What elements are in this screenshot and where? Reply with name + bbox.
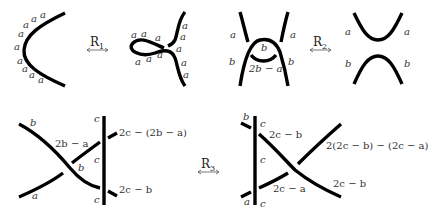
- label-lower-inner: 2c − a: [273, 183, 306, 194]
- label-middle-bottom: 2b − a: [248, 63, 283, 74]
- label-c-top: c: [260, 118, 266, 129]
- r1-right-kink: a a a a a a a a a a a: [131, 12, 189, 86]
- arc-label: a: [31, 13, 37, 24]
- r2-move-arrow: R2: [310, 35, 331, 52]
- arc-label: a: [22, 63, 28, 74]
- arc-label: a: [40, 9, 46, 20]
- label-right-top: 2(2c − b) − (2c − a): [326, 140, 429, 151]
- arc-label: a: [131, 29, 137, 40]
- label-bottom-right: b: [288, 56, 294, 67]
- label-c-bottom: c: [94, 194, 100, 205]
- label-top-left: a: [345, 26, 351, 37]
- arc-label: a: [135, 56, 141, 67]
- arc-label: a: [29, 69, 35, 80]
- r3-right-diagram: b a c c c 2c − b 2c − a 2(2c − b) − (2c …: [241, 111, 429, 209]
- arc-label: a: [146, 53, 152, 64]
- label-bottom-right: b: [404, 58, 410, 69]
- label-c-mid: c: [260, 154, 266, 165]
- label-right-top: 2c − (2b − a): [119, 127, 187, 138]
- r1-left-arc: a a a a a a a a a: [14, 9, 65, 86]
- arc-label: a: [18, 28, 24, 39]
- move-label: R2: [313, 35, 327, 51]
- label-a: a: [32, 190, 38, 201]
- label-b: b: [243, 111, 249, 122]
- r3-move-arrow: R3: [198, 157, 219, 174]
- label-right-bottom: 2c − b: [333, 178, 366, 189]
- label-a: a: [244, 196, 250, 207]
- label-crossing-b: b: [78, 162, 84, 173]
- r2-right-diagram: a a b b: [345, 13, 410, 84]
- label-c-top: c: [94, 113, 100, 124]
- move-label: R1: [90, 35, 104, 51]
- label-c-bottom: c: [260, 198, 266, 209]
- label-2b-minus-a: 2b − a: [55, 138, 89, 149]
- arc-label: a: [14, 41, 20, 52]
- label-top-right: a: [404, 26, 410, 37]
- arc-label: a: [157, 49, 163, 60]
- reidemeister-moves-diagram: a a a a a a a a a R1 a a a a a a a a a a…: [0, 0, 435, 215]
- label-middle-top: b: [261, 42, 267, 53]
- r2-left-diagram: a a b b b 2b − a: [229, 12, 296, 86]
- label-b: b: [30, 117, 36, 128]
- label-right-bottom: 2c − b: [119, 184, 152, 195]
- r3-left-diagram: b a 2b − a b c c c 2c − (2b − a) 2c − b: [19, 113, 187, 205]
- arc-label: a: [38, 74, 44, 85]
- arc-label: a: [181, 57, 187, 68]
- arc-label: a: [180, 31, 186, 42]
- label-bottom-left: b: [229, 56, 235, 67]
- arc-label: a: [141, 28, 147, 39]
- label-c-mid: c: [94, 154, 100, 165]
- label-upper-inner: 2c − b: [269, 129, 302, 140]
- label-bottom-left: b: [345, 58, 351, 69]
- r1-move-arrow: R1: [87, 35, 108, 52]
- arc-label: a: [176, 43, 182, 54]
- label-top-left: a: [230, 29, 236, 40]
- move-label: R3: [201, 157, 215, 173]
- label-top-right: a: [290, 29, 296, 40]
- arc-label: a: [183, 69, 189, 80]
- arc-label: a: [155, 32, 161, 43]
- arc-label: a: [182, 20, 188, 31]
